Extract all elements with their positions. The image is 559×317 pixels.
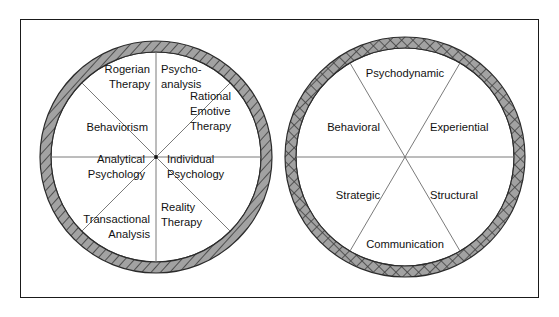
- sector-label-line: Behavioral: [327, 121, 380, 133]
- family-therapies-wheel: [0, 0, 559, 317]
- sector-label-line: Therapy: [190, 120, 231, 132]
- sector-label-line: Experiential: [430, 121, 488, 133]
- sector-label-line: Transactional: [83, 213, 150, 225]
- sector-label-line: Psycho-: [161, 63, 202, 75]
- sector-label-line: Rogerian: [105, 63, 150, 75]
- sector-label-behaviorism: Behaviorism: [86, 121, 148, 133]
- sector-label-behavioral: Behavioral: [327, 121, 380, 133]
- sector-label-line: Behaviorism: [86, 121, 148, 133]
- sector-label-line: Psychodynamic: [366, 67, 445, 79]
- sector-label-line: Psychology: [88, 168, 146, 180]
- sector-label-line: Psychology: [167, 168, 225, 180]
- sector-label-line: Therapy: [161, 216, 202, 228]
- sector-label-structural: Structural: [430, 189, 478, 201]
- sector-label-line: Emotive: [190, 105, 230, 117]
- sector-label-line: analysis: [161, 78, 202, 90]
- sector-label-psychodynamic: Psychodynamic: [366, 67, 445, 79]
- figure-canvas: Psycho-analysisRationalEmotiveTherapyInd…: [0, 0, 559, 317]
- sector-label-experiential: Experiential: [430, 121, 488, 133]
- wheel-right-hatched-ring: [0, 0, 559, 317]
- sector-label-line: Strategic: [336, 189, 381, 201]
- sector-label-line: Structural: [430, 189, 478, 201]
- sector-label-line: Reality: [161, 201, 196, 213]
- sector-label-line: Individual: [167, 153, 214, 165]
- sector-label-line: Rational: [190, 90, 231, 102]
- sector-label-line: Communication: [366, 238, 444, 250]
- therapy-wheels-diagram: Psycho-analysisRationalEmotiveTherapyInd…: [0, 0, 559, 317]
- sector-label-line: Analysis: [108, 228, 150, 240]
- sector-label-strategic: Strategic: [336, 189, 381, 201]
- sector-label-communication: Communication: [366, 238, 444, 250]
- sector-label-rational-emotive-therapy: RationalEmotiveTherapy: [190, 90, 231, 132]
- sector-label-line: Therapy: [109, 78, 150, 90]
- sector-label-line: Analytical: [97, 153, 145, 165]
